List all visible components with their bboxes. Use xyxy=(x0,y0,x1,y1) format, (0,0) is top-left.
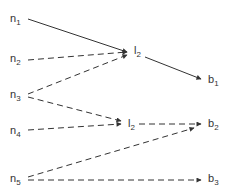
edge-n4-to-l2b xyxy=(28,124,121,130)
node-subscript: 4 xyxy=(16,130,20,139)
edge-n3-to-l2a xyxy=(28,55,127,94)
edge-n2-to-l2a xyxy=(28,52,127,60)
edge-l2a-to-b1 xyxy=(145,57,201,79)
edge-n5-to-b2 xyxy=(28,128,194,177)
node-subscript: 3 xyxy=(214,178,218,187)
node-subscript: 1 xyxy=(214,79,218,88)
node-l2-bottom: l2 xyxy=(128,118,135,129)
node-n5: n5 xyxy=(10,173,21,184)
diagram-canvas: n1 n2 n3 n4 n5 l2 l2 b1 b2 b3 xyxy=(0,0,231,194)
node-n2: n2 xyxy=(10,53,21,64)
node-n1: n1 xyxy=(10,13,21,24)
node-subscript: 2 xyxy=(16,58,20,67)
edge-layer xyxy=(0,0,231,194)
node-subscript: 2 xyxy=(136,50,140,59)
node-n3: n3 xyxy=(10,89,21,100)
node-subscript: 3 xyxy=(16,94,20,103)
node-n4: n4 xyxy=(10,125,21,136)
edge-n1-to-l2a xyxy=(28,19,127,52)
node-b1: b1 xyxy=(208,74,219,85)
node-l2-top: l2 xyxy=(134,45,141,56)
node-b2: b2 xyxy=(208,118,219,129)
node-subscript: 2 xyxy=(130,123,134,132)
node-subscript: 5 xyxy=(16,178,20,187)
edge-n3-to-l2b xyxy=(28,97,121,121)
node-subscript: 1 xyxy=(16,18,20,27)
node-b3: b3 xyxy=(208,173,219,184)
node-subscript: 2 xyxy=(214,123,218,132)
